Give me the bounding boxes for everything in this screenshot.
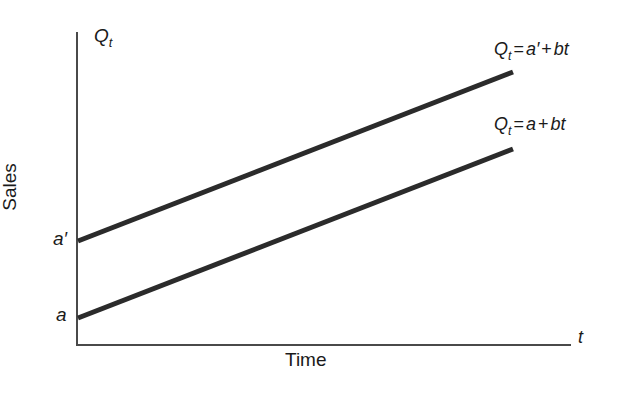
x-axis-variable-label: t (578, 328, 583, 346)
equation-upper-equals: = (511, 39, 526, 59)
upper-trend-line (78, 72, 513, 241)
intercept-label-a: a (56, 305, 67, 324)
y-axis-variable-label: Qt (94, 26, 112, 50)
equation-upper-slope-term: bt (554, 39, 569, 59)
equation-lower-plus: + (536, 114, 551, 134)
equation-upper-lhs: Q (494, 39, 508, 59)
equation-upper-intercept: a′ (526, 39, 539, 59)
equation-lower-lhs: Q (494, 114, 508, 134)
equation-label-upper: Qt=a′+bt (494, 40, 569, 62)
equation-lower-intercept: a (526, 114, 536, 134)
y-axis-variable-base: Q (94, 25, 109, 46)
equation-label-lower: Qt=a+bt (494, 115, 565, 137)
equation-upper-plus: + (539, 39, 554, 59)
y-axis-title: Sales (0, 152, 19, 222)
y-axis-variable-subscript: t (109, 35, 113, 50)
chart-figure: Qt t Sales Time a′ a Qt=a′+bt Qt=a+bt (0, 0, 626, 397)
intercept-label-a-prime: a′ (53, 229, 67, 248)
equation-lower-equals: = (511, 114, 526, 134)
x-axis-title: Time (285, 350, 327, 369)
lower-trend-line (78, 149, 513, 318)
equation-lower-slope-term: bt (550, 114, 565, 134)
